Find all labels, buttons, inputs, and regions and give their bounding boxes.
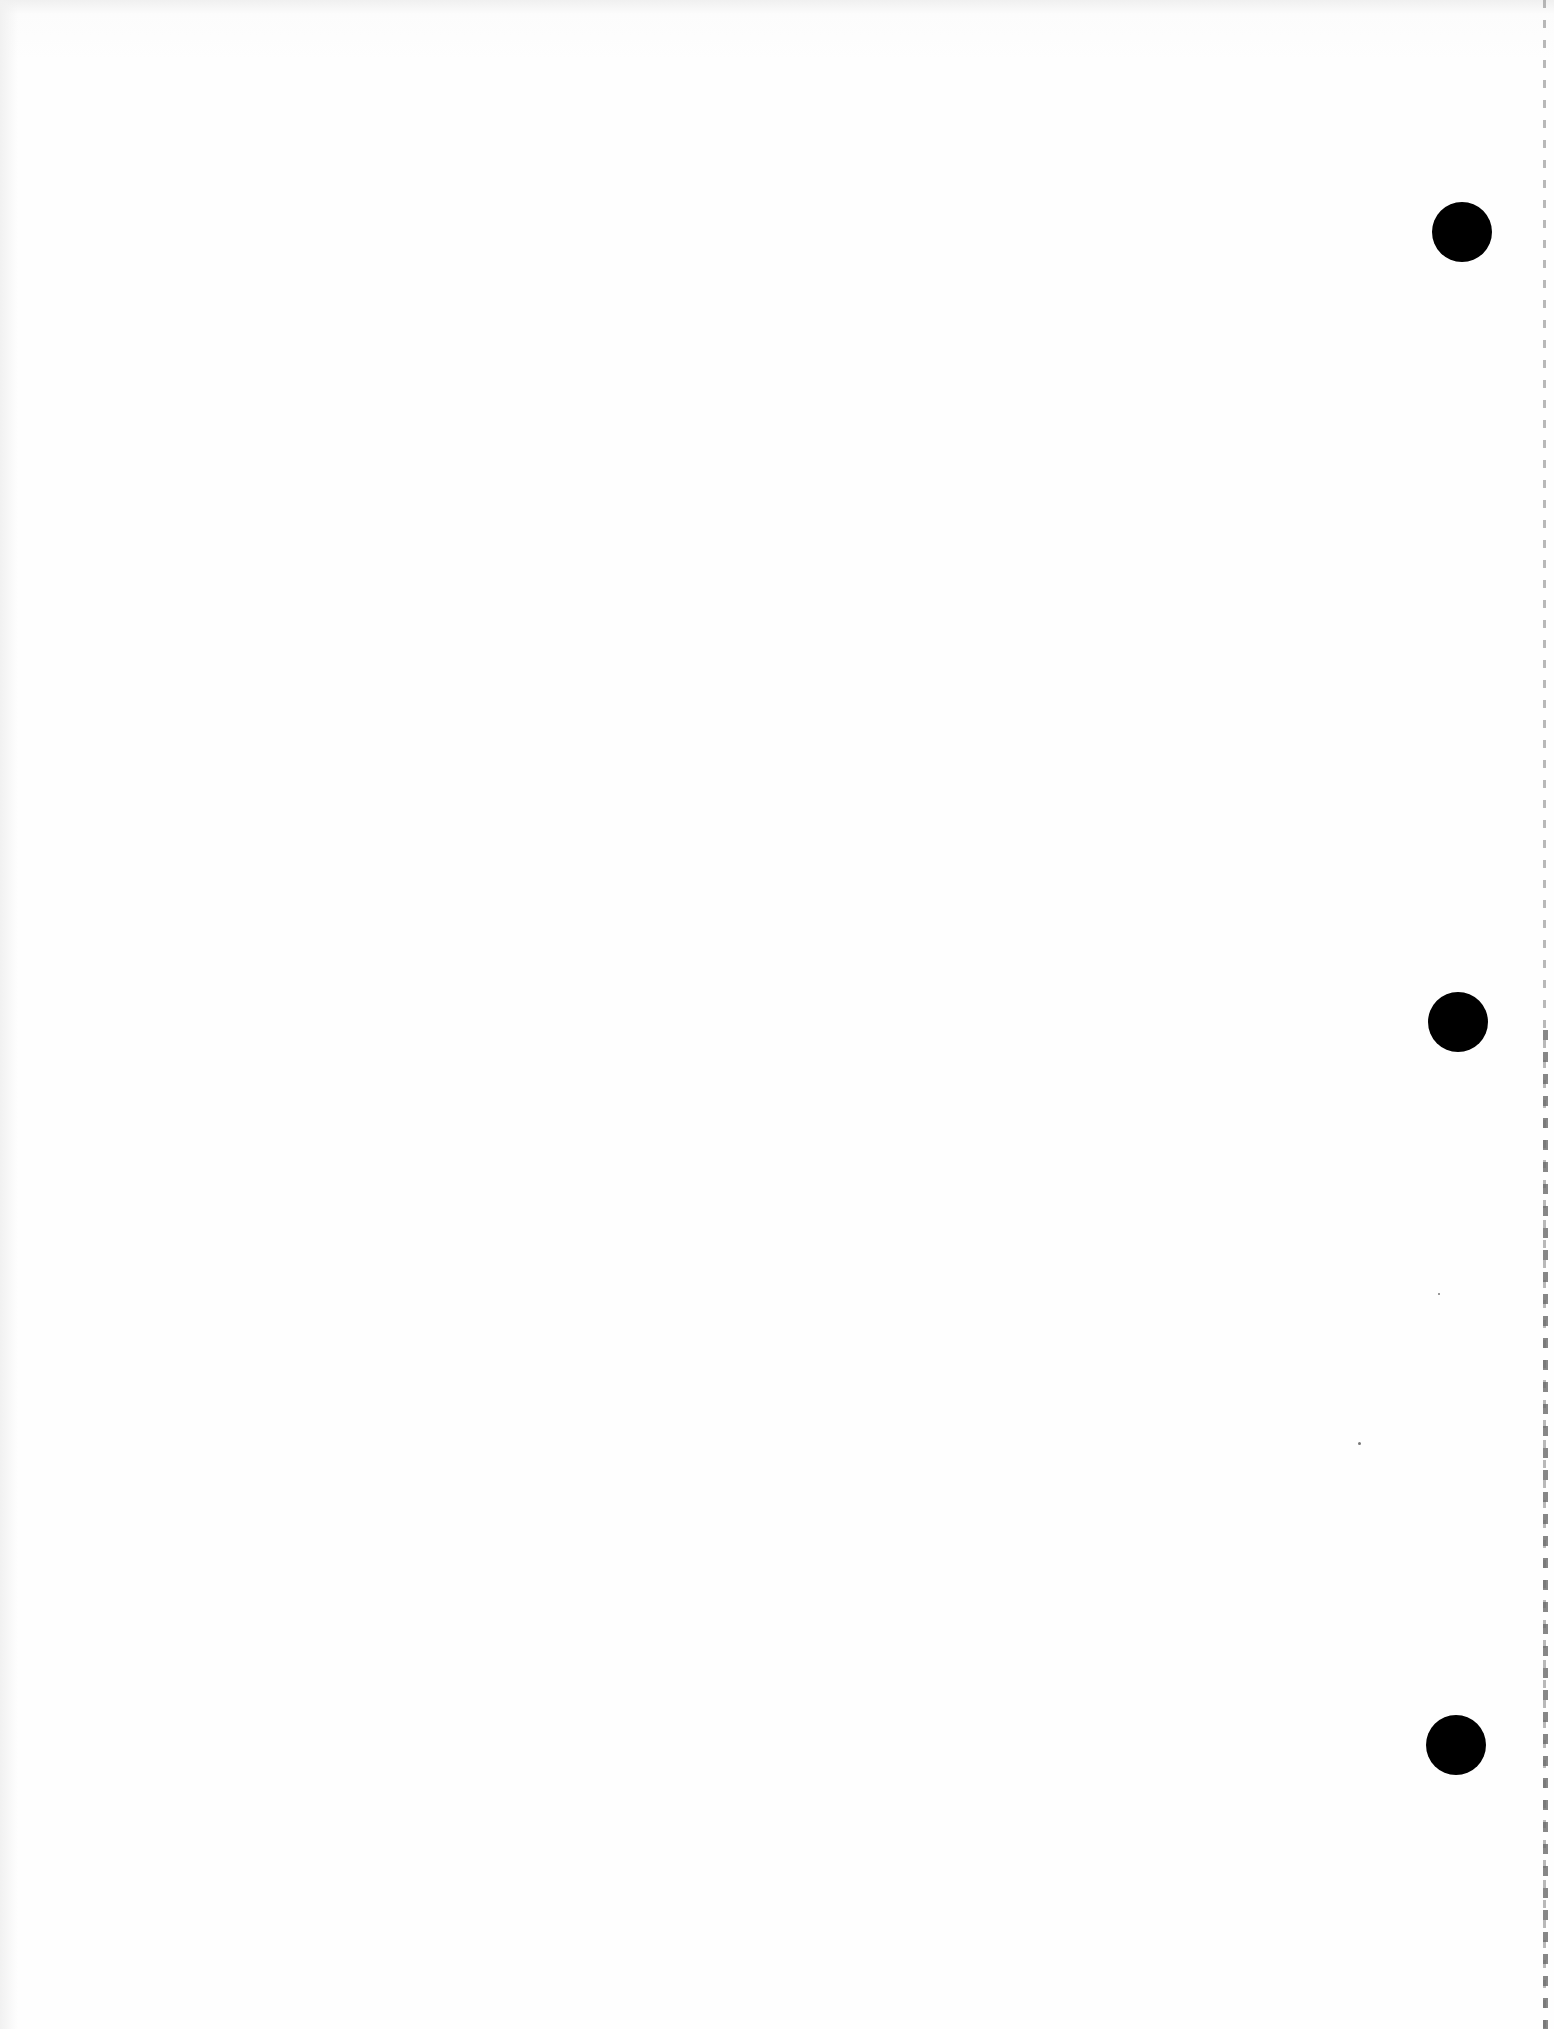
punch-hole-middle <box>1428 992 1488 1052</box>
punch-hole-bottom <box>1426 1715 1486 1775</box>
blank-page <box>0 0 1554 2029</box>
punch-hole-top <box>1432 202 1492 262</box>
scan-speck <box>1358 1442 1361 1445</box>
scan-edge-shadow <box>0 0 18 2029</box>
scan-speck <box>1438 1293 1440 1295</box>
perforated-edge-lower <box>1543 1030 1548 2029</box>
